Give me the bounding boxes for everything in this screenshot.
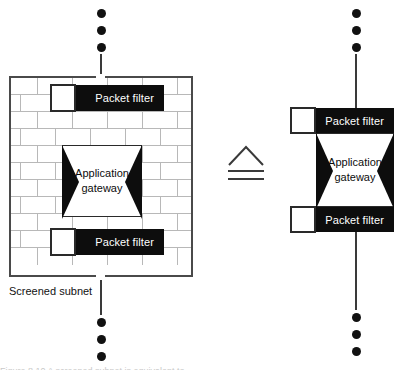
equiv-bar-upper xyxy=(228,170,264,172)
corresponds-to-symbol xyxy=(228,144,264,182)
application-gateway-label: Application gateway xyxy=(63,166,141,196)
application-gateway-right[interactable]: Application gateway xyxy=(316,133,394,207)
dot xyxy=(97,43,106,52)
packet-filter-bottom-right[interactable]: Packet filter xyxy=(291,207,394,232)
packet-filter-port-square xyxy=(50,84,76,112)
packet-filter-label: Packet filter xyxy=(95,236,154,248)
dot xyxy=(352,313,361,322)
packet-filter-top-left[interactable]: Packet filter xyxy=(51,85,164,111)
packet-filter-port-square xyxy=(290,107,316,134)
packet-filter-top-right[interactable]: Packet filter xyxy=(291,108,394,133)
application-gateway-label: Application gateway xyxy=(317,155,393,185)
packet-filter-bottom-left[interactable]: Packet filter xyxy=(51,229,164,255)
equiv-bar-lower xyxy=(228,178,264,180)
application-gateway-left[interactable]: Application gateway xyxy=(62,145,142,217)
caret-icon xyxy=(228,144,264,166)
page-cut-caption: Figure 8.10 A screened subnet is equival… xyxy=(0,366,404,370)
dot xyxy=(97,9,106,18)
wall-gap-top xyxy=(96,74,105,80)
dot xyxy=(97,318,106,327)
brick-row xyxy=(11,112,191,129)
packet-filter-label: Packet filter xyxy=(325,214,384,226)
dot xyxy=(352,9,361,18)
dot xyxy=(352,347,361,356)
dot xyxy=(352,330,361,339)
brick-row xyxy=(11,129,191,146)
packet-filter-label: Packet filter xyxy=(325,115,384,127)
connector-line xyxy=(355,232,357,310)
dot xyxy=(97,26,106,35)
gateway-label-line1: Application xyxy=(317,155,393,170)
packet-filter-label: Packet filter xyxy=(95,92,154,104)
gateway-label-line1: Application xyxy=(63,166,141,181)
gateway-label-line2: gateway xyxy=(63,181,141,196)
packet-filter-port-square xyxy=(290,206,316,233)
dot xyxy=(97,335,106,344)
screened-subnet-caption: Screened subnet xyxy=(9,285,92,297)
wall-gap-bottom xyxy=(96,272,105,280)
connector-line xyxy=(355,54,357,109)
dot xyxy=(352,26,361,35)
packet-filter-port-square xyxy=(50,228,76,256)
figure-canvas: Packet filter Application gateway xyxy=(0,0,404,370)
gateway-label-line2: gateway xyxy=(317,170,393,185)
dot xyxy=(352,43,361,52)
dot xyxy=(97,352,106,361)
